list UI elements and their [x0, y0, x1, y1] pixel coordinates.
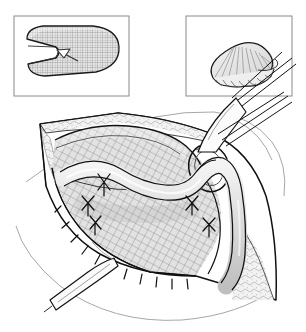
- flat-mesh-panel: [14, 16, 129, 96]
- illustration-canvas: [0, 0, 306, 332]
- rolled-plug-panel: [186, 16, 292, 96]
- surgical-illustration-figure: Inguinal hernia mesh repair operative il…: [0, 0, 306, 332]
